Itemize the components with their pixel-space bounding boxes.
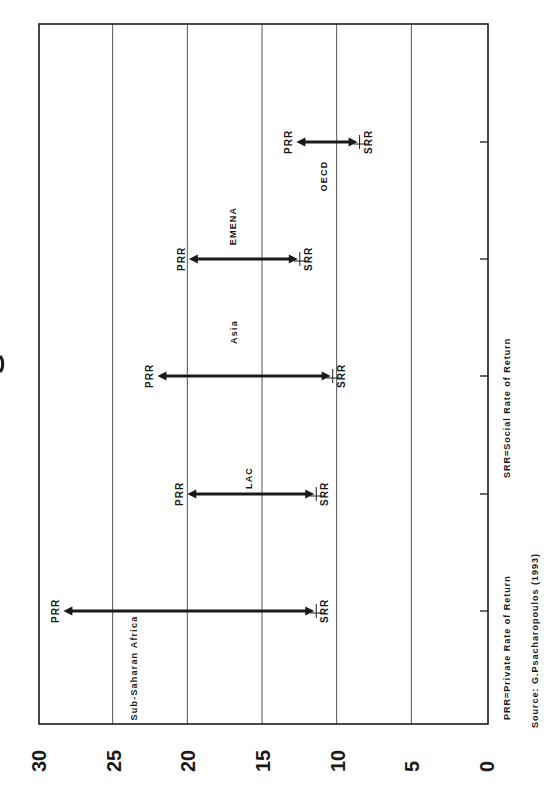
srr-point-label: SRR: [319, 482, 330, 506]
arrowhead-left-icon: [296, 138, 305, 147]
value-tick-label: 30: [28, 750, 50, 772]
value-tick-label: 15: [252, 750, 274, 772]
category-label: Asia: [229, 320, 239, 344]
arrowhead-right-icon: [349, 138, 358, 147]
prr-point-label: PRR: [176, 247, 187, 271]
axis-ticks: [480, 142, 488, 611]
arrowhead-left-icon: [189, 255, 198, 264]
srr-point-label: SRR: [336, 364, 347, 388]
arrowhead-left-icon: [157, 372, 166, 381]
plot-frame: [39, 24, 488, 724]
prr-point-label: PRR: [283, 130, 294, 154]
prr-point-label: PRR: [174, 482, 185, 506]
category-label: OECD: [319, 161, 329, 192]
range-arrow-emena: PRRSRREMENA: [176, 207, 314, 271]
arrowhead-left-icon: [63, 607, 72, 616]
value-tick-label: 25: [103, 750, 125, 772]
srr-point-label: SRR: [319, 599, 330, 623]
srr-point-label: SRR: [303, 247, 314, 271]
category-label: Sub-Saharan Africa: [129, 616, 139, 721]
range-arrow-sub-saharan-africa: PRRSRRSub-Saharan Africa: [50, 599, 330, 721]
plot-border: [39, 24, 488, 724]
arrowhead-right-icon: [305, 607, 314, 616]
arrowhead-left-icon: [187, 490, 196, 499]
source-note: Source: G.Psacharopoulos (1993): [530, 553, 540, 728]
value-tick-label: 10: [327, 750, 349, 772]
category-label: EMENA: [228, 207, 238, 246]
legend-srr-note: SRR=Social Rate of Return: [502, 338, 512, 478]
range-arrow-oecd: PRRSRROECD: [283, 130, 373, 192]
value-tick-label: 5: [401, 761, 423, 772]
rate-of-return-chart: PRRSRRSub-Saharan AfricaPRRSRRLACPRRSRRA…: [0, 0, 556, 795]
clipped-glyph: [0, 356, 3, 372]
legend-notes: PRR=Private Rate of Return SRR=Social Ra…: [502, 338, 540, 728]
prr-point-label: PRR: [50, 599, 61, 623]
gridlines: [113, 24, 412, 724]
legend-prr-note: PRR=Private Rate of Return: [502, 575, 512, 720]
data-arrows: PRRSRRSub-Saharan AfricaPRRSRRLACPRRSRRA…: [50, 130, 373, 721]
arrowhead-right-icon: [305, 490, 314, 499]
range-arrow-asia: PRRSRRAsia: [144, 320, 346, 388]
value-tick-label: 0: [476, 761, 498, 772]
chart-canvas: PRRSRRSub-Saharan AfricaPRRSRRLACPRRSRRA…: [0, 0, 556, 795]
srr-point-label: SRR: [363, 130, 374, 154]
range-arrow-lac: PRRSRRLAC: [174, 467, 330, 506]
prr-point-label: PRR: [144, 364, 155, 388]
axis-tick-labels: 051015202530: [28, 750, 498, 772]
arrowhead-right-icon: [289, 255, 298, 264]
arrowhead-right-icon: [322, 372, 331, 381]
value-tick-label: 20: [177, 750, 199, 772]
category-label: LAC: [244, 467, 254, 489]
